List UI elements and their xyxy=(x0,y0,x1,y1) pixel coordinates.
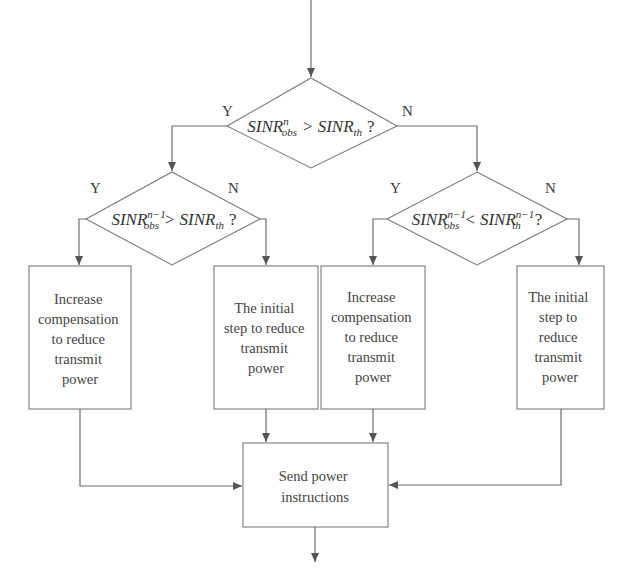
d3-no-connector xyxy=(567,219,579,265)
decision-sinr-n-obs-gt-th: SINRnobs>SINRth? xyxy=(227,78,397,168)
d2-yes-label: Y xyxy=(90,180,101,196)
process-initial-step-right: The initial step to reduce transmit powe… xyxy=(517,266,604,409)
d1-no-connector xyxy=(397,126,477,171)
process-send-power-instructions: Send power instructions xyxy=(243,443,388,527)
p1-to-send-connector xyxy=(80,409,242,486)
d1-no-label: N xyxy=(402,103,413,119)
d3-yes-connector xyxy=(373,219,387,265)
d2-no-label: N xyxy=(228,180,239,196)
process-increase-compensation-right: Increase compensation to reduce transmit… xyxy=(321,266,425,409)
process-initial-step-left: The initial step to reduce transmit powe… xyxy=(214,266,318,409)
d3-no-label: N xyxy=(545,180,556,196)
p4-to-send-connector xyxy=(389,409,561,485)
d2-yes-connector xyxy=(79,219,86,265)
d1-yes-label: Y xyxy=(222,103,233,119)
process-increase-compensation-left: Increase compensation to reduce transmit… xyxy=(29,266,131,409)
d2-no-connector xyxy=(260,219,266,265)
decision-sinr-n1-obs-lt-th: SINRn−1obs<SINRn−1th? xyxy=(387,172,567,265)
d1-yes-connector xyxy=(172,126,227,171)
flowchart-diagram: SINRnobs>SINRth? Y N SINRn−1obs>SINRth? … xyxy=(0,0,632,586)
d3-yes-label: Y xyxy=(390,180,401,196)
